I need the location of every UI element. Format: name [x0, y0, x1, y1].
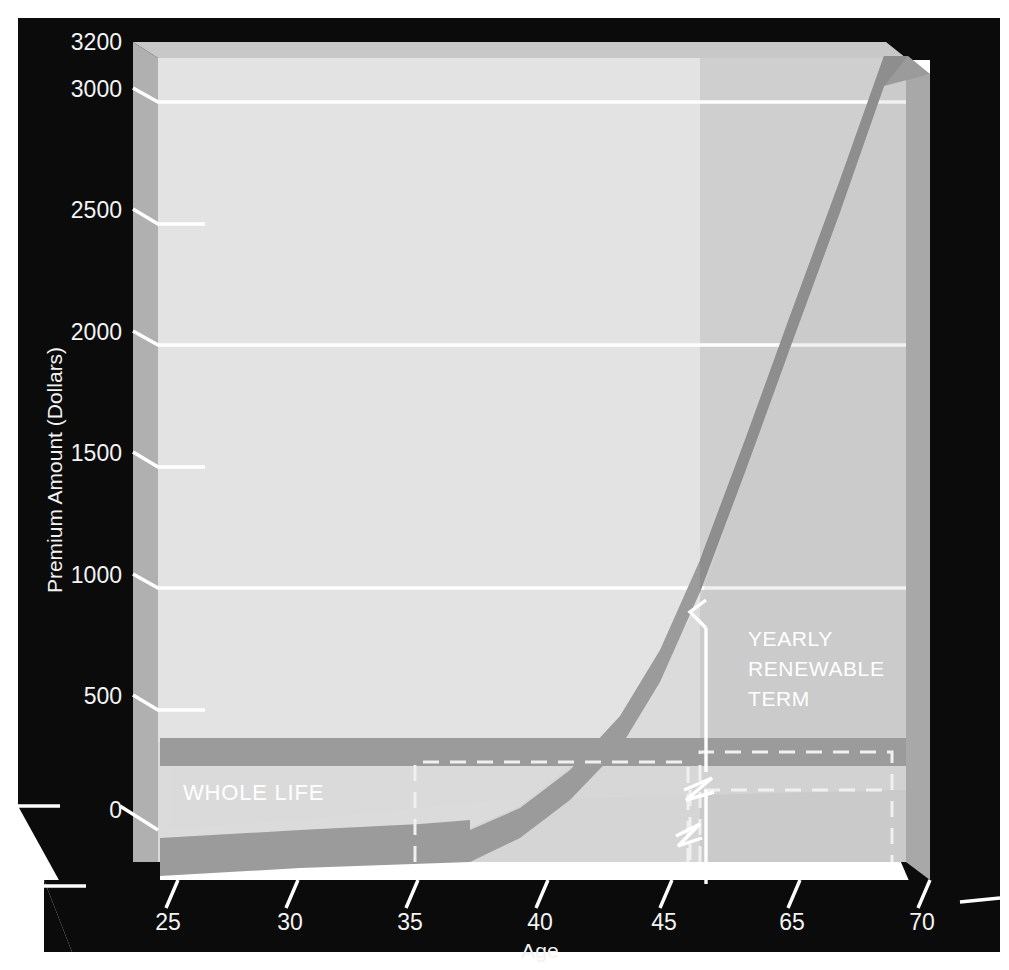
premium-comparison-chart: 3200 3000 2500 2000 1500 1000 500 0 25 3…	[0, 0, 1009, 970]
x-tick-label-40: 40	[527, 909, 553, 935]
chart-figure: 3200 3000 2500 2000 1500 1000 500 0 25 3…	[0, 0, 1009, 970]
x-tick-label-65: 65	[779, 909, 805, 935]
plot-left-bevel	[133, 42, 158, 862]
x-tick-label-30: 30	[277, 909, 303, 935]
yrt-label-line3: TERM	[748, 687, 810, 710]
y-tick-label-500: 500	[84, 683, 122, 709]
yrt-label-line1: YEARLY	[748, 627, 833, 650]
y-axis-title: Premium Amount (Dollars)	[43, 347, 66, 593]
y-tick-label-1500: 1500	[71, 440, 122, 466]
yrt-label-line2: RENEWABLE	[748, 657, 885, 680]
y-tick-label-0: 0	[109, 797, 122, 823]
y-tick-label-2500: 2500	[71, 197, 122, 223]
y-tick-label-1000: 1000	[71, 562, 122, 588]
x-tick-label-70: 70	[909, 909, 935, 935]
whole-life-series-label: WHOLE LIFE	[183, 780, 324, 805]
plot-right-wall	[906, 58, 930, 880]
plot-top-bevel	[133, 42, 906, 58]
x-tick-label-35: 35	[397, 909, 423, 935]
y-tick-label-3200: 3200	[71, 29, 122, 55]
y-tick-label-2000: 2000	[71, 319, 122, 345]
x-tick-label-25: 25	[155, 909, 181, 935]
whole-life-band-cap	[160, 738, 170, 766]
x-tick-label-45: 45	[651, 909, 677, 935]
x-axis-title: Age	[521, 939, 558, 962]
y-tick-label-3000: 3000	[71, 76, 122, 102]
